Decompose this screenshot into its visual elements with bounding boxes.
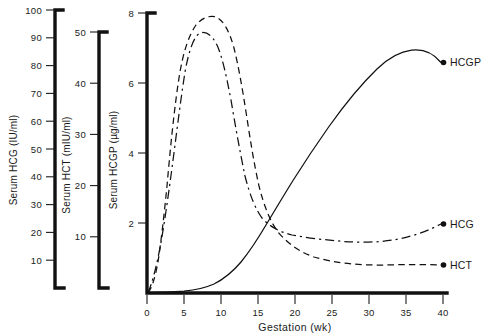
middle-axis-title: Serum HCT (mIU/ml) <box>61 116 72 213</box>
x-axis-title: Gestation (wk) <box>258 321 331 333</box>
series-label-hcgp: HCGP <box>450 56 481 68</box>
hcgp-tick-8: 8 <box>128 8 134 19</box>
endpoint-dot-hcg <box>441 221 447 227</box>
x-axis: 0 5 10 15 20 25 30 35 40 Gestation (wk) <box>144 295 448 333</box>
middle-tick-10: 10 <box>75 231 86 242</box>
x-tick-40: 40 <box>437 307 448 318</box>
x-tick-5: 5 <box>181 307 187 318</box>
data-curves <box>148 16 441 292</box>
hcgp-tick-2: 2 <box>128 218 134 229</box>
left-tick-20: 20 <box>31 227 42 238</box>
x-tick-0: 0 <box>144 307 150 318</box>
x-tick-30: 30 <box>363 307 374 318</box>
curve-hct <box>148 16 441 292</box>
series-endpoints: HCGP HCG HCT <box>441 56 481 271</box>
x-tick-20: 20 <box>289 307 300 318</box>
figure-container: 100 90 80 70 60 50 40 30 20 10 Serum HCG… <box>0 0 483 336</box>
left-tick-90: 90 <box>31 32 42 43</box>
axis-middle-hct: 50 40 30 20 10 Serum HCT (mIU/ml) <box>61 27 108 289</box>
endpoint-dot-hcgp <box>441 60 447 66</box>
left-tick-60: 60 <box>31 116 42 127</box>
x-tick-35: 35 <box>400 307 411 318</box>
axis-inner-hcgp: 8 6 4 2 Serum HCGP (µg/ml) <box>108 8 447 294</box>
hcgp-tick-6: 6 <box>128 78 134 89</box>
gestation-hormone-chart: 100 90 80 70 60 50 40 30 20 10 Serum HCG… <box>0 0 483 336</box>
left-tick-40: 40 <box>31 171 42 182</box>
hcgp-tick-4: 4 <box>128 148 134 159</box>
hcgp-axis-and-baseline <box>147 13 447 293</box>
middle-tick-30: 30 <box>75 129 86 140</box>
left-tick-80: 80 <box>31 60 42 71</box>
left-tick-10: 10 <box>31 255 42 266</box>
left-axis-title: Serum HCG (IU/ml) <box>8 115 19 206</box>
x-tick-10: 10 <box>215 307 226 318</box>
x-axis-ticks <box>147 295 443 304</box>
x-tick-15: 15 <box>252 307 263 318</box>
middle-tick-40: 40 <box>75 78 86 89</box>
series-label-hcg: HCG <box>450 218 474 230</box>
endpoint-dot-hct <box>441 262 447 268</box>
left-tick-70: 70 <box>31 88 42 99</box>
curve-hcg <box>148 33 441 293</box>
hcgp-axis-title: Serum HCGP (µg/ml) <box>108 111 119 210</box>
x-tick-25: 25 <box>326 307 337 318</box>
left-tick-50: 50 <box>31 144 42 155</box>
middle-tick-50: 50 <box>75 27 86 38</box>
left-tick-30: 30 <box>31 199 42 210</box>
middle-tick-20: 20 <box>75 180 86 191</box>
curve-hcgp <box>148 50 441 293</box>
series-label-hct: HCT <box>450 259 473 271</box>
axis-left-hcg: 100 90 80 70 60 50 40 30 20 10 Serum HCG… <box>8 5 64 289</box>
left-tick-100: 100 <box>25 5 42 16</box>
middle-axis-spine <box>99 32 108 288</box>
